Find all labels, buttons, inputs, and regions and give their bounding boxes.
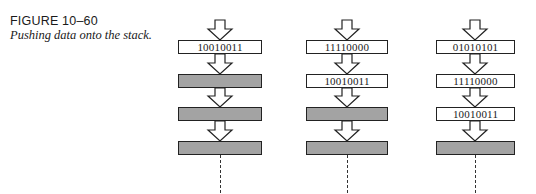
push-arrow-icon — [333, 19, 361, 41]
stack-continuation-line — [475, 155, 476, 193]
stack-continuation-line — [347, 155, 348, 193]
stack-column-2: 11110000 10010011 — [306, 0, 390, 194]
shift-arrow-icon — [333, 54, 361, 75]
stack-cell — [436, 141, 515, 155]
stack-cell: 01010101 — [436, 40, 515, 54]
stack-cell: 10010011 — [436, 107, 515, 121]
stack-cell — [178, 74, 262, 88]
shift-arrow-icon — [206, 54, 234, 75]
stack-continuation-line — [220, 155, 221, 193]
shift-arrow-icon — [461, 54, 489, 75]
stack-cell — [306, 141, 388, 155]
stack-column-1: 10010011 — [178, 0, 264, 194]
shift-arrow-icon — [461, 121, 489, 142]
shift-arrow-icon — [333, 88, 361, 108]
shift-arrow-icon — [206, 121, 234, 142]
stack-cell: 10010011 — [306, 74, 388, 88]
shift-arrow-icon — [206, 88, 234, 108]
shift-arrow-icon — [333, 121, 361, 142]
stack-cell — [306, 107, 388, 121]
stack-cell — [178, 107, 262, 121]
stack-cell: 10010011 — [178, 40, 262, 54]
push-arrow-icon — [206, 19, 234, 41]
figure-caption: FIGURE 10–60 Pushing data onto the stack… — [10, 14, 152, 42]
shift-arrow-icon — [461, 88, 489, 108]
push-arrow-icon — [461, 19, 489, 41]
stack-column-3: 01010101 11110000 10010011 — [436, 0, 516, 194]
stack-cell — [178, 141, 262, 155]
figure-title: Pushing data onto the stack. — [10, 28, 152, 42]
stack-cell: 11110000 — [436, 74, 515, 88]
figure-label: FIGURE 10–60 — [10, 14, 152, 28]
stack-cell: 11110000 — [306, 40, 388, 54]
